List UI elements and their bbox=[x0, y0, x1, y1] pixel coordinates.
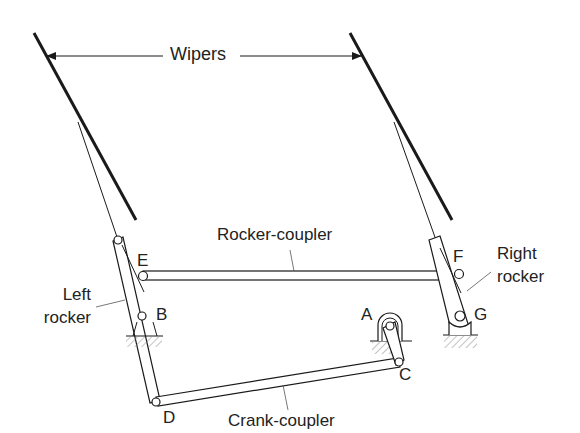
joint-f-pin bbox=[455, 270, 464, 279]
right-rocker-label-line1: Right bbox=[497, 245, 537, 264]
joint-d-pin bbox=[152, 398, 160, 406]
left-wiper-arm bbox=[78, 122, 118, 240]
joint-e-label: E bbox=[137, 252, 148, 271]
rocker-coupler-bar bbox=[143, 271, 445, 280]
joint-a-pin bbox=[386, 322, 394, 330]
left-wiper-blade bbox=[34, 33, 136, 220]
joint-g-label: G bbox=[474, 306, 487, 325]
left-rocker-leader bbox=[96, 300, 125, 307]
rocker-coupler-leader bbox=[290, 250, 294, 271]
joint-g-pin bbox=[455, 311, 465, 321]
joint-c-label: C bbox=[399, 366, 411, 385]
left-ground-hatch bbox=[126, 337, 162, 347]
crank-coupler-leader bbox=[283, 385, 288, 410]
joint-f-label: F bbox=[453, 248, 463, 267]
rocker-coupler-label: Rocker-coupler bbox=[217, 226, 332, 245]
wiper-linkage-diagram bbox=[0, 0, 580, 433]
right-wiper-blade bbox=[350, 33, 452, 220]
right-rocker-leader bbox=[467, 272, 491, 291]
joint-b-pin bbox=[138, 312, 146, 320]
right-rocker-label-line2: rocker bbox=[497, 268, 544, 287]
crank-coupler-bar bbox=[156, 358, 400, 406]
left-rocker-label-line2: rocker bbox=[33, 309, 91, 328]
joint-e-pin bbox=[139, 272, 148, 281]
joint-b-label: B bbox=[156, 306, 167, 325]
left-rocker-label-line1: Left bbox=[55, 286, 91, 305]
wipers-label: Wipers bbox=[170, 45, 226, 65]
right-ground-hatch bbox=[444, 336, 477, 348]
left-rocker-top-pin bbox=[114, 236, 122, 244]
crank-coupler-label: Crank-coupler bbox=[228, 412, 335, 431]
joint-a-label: A bbox=[361, 306, 372, 325]
joint-d-label: D bbox=[163, 409, 175, 428]
